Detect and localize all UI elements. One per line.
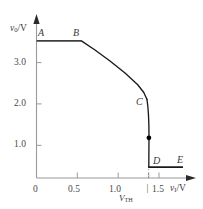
x-axis-arrowhead (186, 175, 196, 181)
x-axis-title-unit: /V (176, 183, 186, 193)
y-axis-arrowhead (33, 14, 39, 24)
point-label-d: D (153, 156, 160, 166)
operating-point-marker (147, 135, 152, 140)
y-axis-title-unit: /V (17, 23, 27, 33)
x-tick-label-15: 1.5 (152, 185, 164, 195)
segment-cd-steep-drop (147, 100, 149, 168)
point-label-e: E (177, 155, 183, 165)
point-label-b: B (73, 28, 79, 38)
y-axis-ticks (37, 63, 42, 146)
point-label-c: C (136, 97, 143, 107)
threshold-label-sub: TH (125, 196, 133, 203)
figure-container: v0/V 3.0 2.0 1.0 0 0.5 1.0 1.5 | VTH vI/… (0, 0, 203, 209)
x-axis-ticks (77, 173, 159, 179)
y-axis-title: v0/V (10, 24, 27, 34)
threshold-label: VTH (119, 194, 133, 204)
y-tick-label-1: 1.0 (14, 140, 26, 150)
y-tick-label-3: 3.0 (14, 58, 26, 68)
y-tick-label-2: 2.0 (14, 99, 26, 109)
x-origin-label: 0 (33, 185, 38, 195)
segment-bc-transition (81, 41, 147, 100)
x-tick-label-05: 0.5 (68, 185, 80, 195)
x-label-separator: | (147, 184, 149, 194)
x-axis-title: vI/V (170, 184, 186, 194)
transfer-characteristic-plot (0, 0, 203, 209)
point-label-a: A (38, 28, 44, 38)
